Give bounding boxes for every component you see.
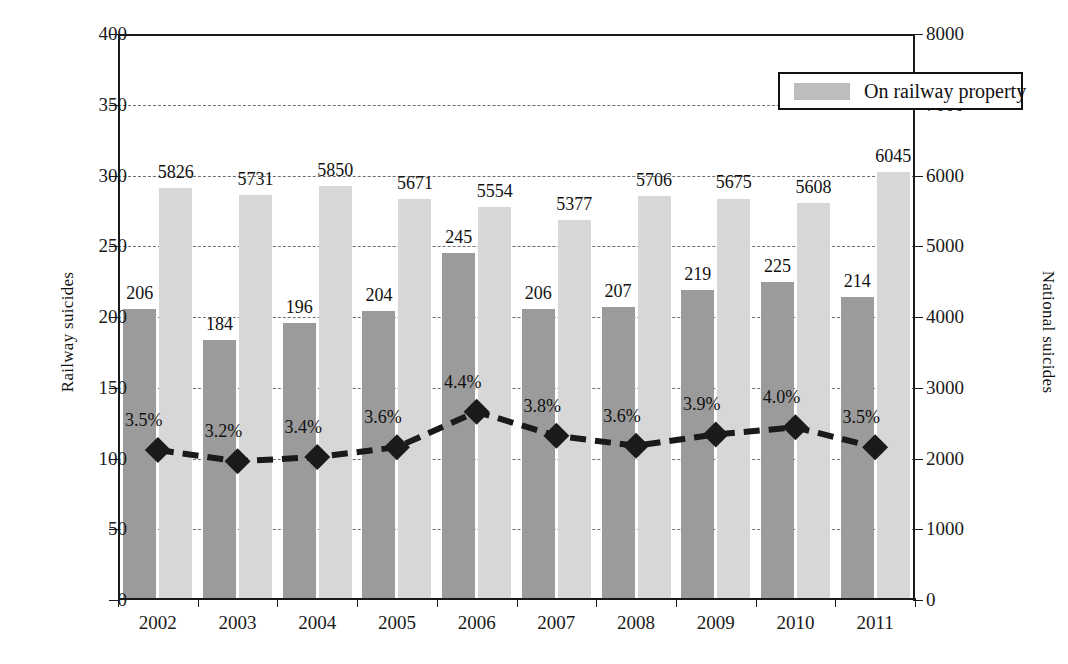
y-tick-label-right: 4000: [926, 306, 964, 328]
y-axis-left-title: Railway suicides: [58, 272, 78, 392]
x-tick: [277, 598, 278, 607]
bar-value-label-railway: 214: [844, 271, 871, 292]
x-tick: [756, 598, 757, 607]
y-tick-right: [913, 246, 923, 247]
y-tick-label-right: 3000: [926, 377, 964, 399]
y-tick-label-right: 1000: [926, 518, 964, 540]
x-tick: [676, 598, 677, 607]
x-tick: [198, 598, 199, 607]
bar-value-label-national: 5675: [716, 172, 752, 193]
line-marker-diamond: [862, 434, 888, 460]
y-tick-label-left: 300: [99, 165, 128, 187]
line-point-label-percent: 4.0%: [763, 387, 801, 408]
bar-value-label-national: 5377: [556, 194, 592, 215]
x-tick-label: 2002: [139, 612, 177, 634]
x-tick-label: 2011: [856, 612, 893, 634]
bar-value-label-national: 5731: [238, 169, 274, 190]
y-tick-label-left: 350: [99, 94, 128, 116]
line-marker-diamond: [543, 423, 569, 449]
x-tick: [835, 598, 836, 607]
x-tick: [596, 598, 597, 607]
bar-value-label-national: 5850: [317, 160, 353, 181]
line-point-label-percent: 3.8%: [524, 396, 562, 417]
chart-legend: On railway property: [778, 72, 1023, 110]
y-tick-label-left: 200: [99, 306, 128, 328]
line-marker-diamond: [225, 448, 251, 474]
y-tick-right: [913, 176, 923, 177]
bar-value-label-railway: 206: [126, 283, 153, 304]
line-point-label-percent: 3.5%: [842, 407, 880, 428]
y-tick-right: [913, 34, 923, 35]
bar-value-label-railway: 207: [605, 281, 632, 302]
x-tick-label: 2005: [378, 612, 416, 634]
y-tick-label-left: 150: [99, 377, 128, 399]
line-point-label-percent: 4.4%: [444, 372, 482, 393]
y-tick-label-right: 5000: [926, 235, 964, 257]
x-tick: [118, 598, 119, 607]
line-marker-diamond: [703, 421, 729, 447]
x-tick-label: 2009: [697, 612, 735, 634]
x-tick: [437, 598, 438, 607]
bar-value-label-national: 5554: [477, 181, 513, 202]
x-tick: [915, 598, 916, 607]
y-tick-label-left: 250: [99, 235, 128, 257]
line-point-label-percent: 3.5%: [125, 410, 163, 431]
x-tick-label: 2004: [298, 612, 336, 634]
x-tick: [517, 598, 518, 607]
y-tick-right: [913, 317, 923, 318]
line-point-label-percent: 3.4%: [285, 417, 323, 438]
bar-value-label-national: 5671: [397, 173, 433, 194]
line-marker-diamond: [304, 444, 330, 470]
line-point-label-percent: 3.6%: [364, 407, 402, 428]
line-marker-diamond: [623, 433, 649, 459]
line-marker-diamond: [464, 399, 490, 425]
line-series-layer: [118, 34, 915, 600]
y-tick-label-right: 2000: [926, 448, 964, 470]
line-point-label-percent: 3.6%: [603, 406, 641, 427]
y-tick-label-left: 400: [99, 23, 128, 45]
x-tick: [357, 598, 358, 607]
line-marker-diamond: [782, 414, 808, 440]
bar-value-label-national: 5608: [795, 177, 831, 198]
y-tick-label-right: 6000: [926, 165, 964, 187]
line-marker-diamond: [145, 437, 171, 463]
y-tick-label-right: 8000: [926, 23, 964, 45]
bar-value-label-railway: 196: [286, 297, 313, 318]
line-point-label-percent: 3.9%: [683, 394, 721, 415]
bar-value-label-national: 5826: [158, 162, 194, 183]
bar-value-label-national: 5706: [636, 170, 672, 191]
bar-value-label-railway: 225: [764, 256, 791, 277]
x-tick-label: 2007: [537, 612, 575, 634]
x-tick-label: 2008: [617, 612, 655, 634]
x-tick-label: 2006: [458, 612, 496, 634]
bar-value-label-railway: 204: [365, 285, 392, 306]
y-tick-right: [913, 459, 923, 460]
y-tick-label-right: 0: [926, 589, 936, 611]
y-tick-right: [913, 529, 923, 530]
plot-area: 20658263.5%18457313.2%19658503.4%2045671…: [118, 34, 915, 600]
line-on-railway-property: [158, 412, 875, 462]
y-tick-right: [913, 388, 923, 389]
y-tick-label-left: 100: [99, 448, 128, 470]
line-marker-diamond: [384, 434, 410, 460]
x-tick-label: 2010: [776, 612, 814, 634]
bar-value-label-railway: 219: [684, 264, 711, 285]
axis-line-top: [118, 34, 915, 36]
chart-root: Railway suicides National suicides 20658…: [0, 0, 1068, 664]
bar-value-label-national: 6045: [875, 146, 911, 167]
line-point-label-percent: 3.2%: [205, 421, 243, 442]
bar-value-label-railway: 245: [445, 227, 472, 248]
bar-value-label-railway: 206: [525, 283, 552, 304]
y-axis-right-title: National suicides: [1039, 271, 1059, 394]
legend-swatch-on-railway-property: [794, 83, 850, 100]
legend-label-on-railway-property: On railway property: [864, 80, 1026, 103]
y-tick-label-left: 50: [108, 518, 127, 540]
x-tick-label: 2003: [219, 612, 257, 634]
bar-value-label-railway: 184: [206, 314, 233, 335]
